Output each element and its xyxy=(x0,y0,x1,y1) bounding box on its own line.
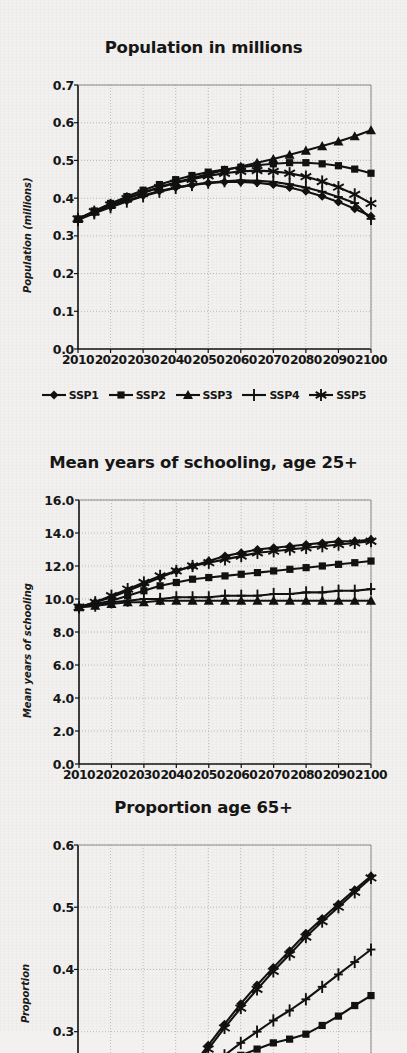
y-tick-label: 0.3 xyxy=(53,1024,74,1039)
x-tick-label: 2040 xyxy=(160,768,192,782)
x-tick-label: 2010 xyxy=(63,768,95,782)
diamond-marker xyxy=(41,388,67,402)
legend-item-ssp5[interactable]: SSP5 xyxy=(308,388,366,402)
asterisk-marker xyxy=(308,388,334,402)
y-tick-label: 0.6 xyxy=(53,115,74,130)
plus-marker xyxy=(241,388,267,402)
legend-item-ssp3[interactable]: SSP3 xyxy=(175,388,233,402)
x-tick-label: 2080 xyxy=(290,353,322,367)
y-axis-label-proportion65: Proportion xyxy=(20,964,31,1023)
y-axis-ticks-population: 0.00.10.20.30.40.50.60.7 xyxy=(32,83,74,348)
chart-title-population: Population in millions xyxy=(0,40,407,57)
y-tick-label: 4.0 xyxy=(53,690,74,705)
x-tick-label: 2070 xyxy=(258,768,290,782)
x-tick-label: 2100 xyxy=(355,353,387,367)
y-tick-label: 6.0 xyxy=(53,657,74,672)
y-tick-label: 0.3 xyxy=(53,228,74,243)
y-tick-label: 0.7 xyxy=(53,77,74,92)
x-tick-label: 2020 xyxy=(96,768,128,782)
chart-panel-schooling: Mean years of schooling, age 25+ Mean ye… xyxy=(0,455,407,778)
legend-label: SSP3 xyxy=(203,389,233,402)
x-tick-label: 2060 xyxy=(225,353,257,367)
y-tick-label: 0.4 xyxy=(53,190,74,205)
legend-label: SSP1 xyxy=(69,389,99,402)
chart-panel-population: Population in millions Population (milli… xyxy=(0,40,407,363)
square-marker xyxy=(108,388,134,402)
x-tick-label: 2050 xyxy=(193,768,225,782)
x-tick-label: 2040 xyxy=(160,353,192,367)
chart-panel-proportion65: Proportion age 65+ Proportion 0.20.30.40… xyxy=(0,800,407,1053)
y-tick-label: 2.0 xyxy=(53,723,74,738)
y-tick-label: 0.5 xyxy=(53,152,74,167)
y-tick-label: 0.2 xyxy=(53,266,74,281)
x-tick-label: 2030 xyxy=(128,768,160,782)
plot-area-proportion65: Proportion 0.20.30.40.50.6 xyxy=(0,823,407,1053)
legend-item-ssp1[interactable]: SSP1 xyxy=(41,388,99,402)
y-tick-label: 0.5 xyxy=(53,899,74,914)
y-tick-label: 10.0 xyxy=(44,591,74,606)
y-tick-label: 0.4 xyxy=(53,961,74,976)
y-tick-label: 8.0 xyxy=(53,624,74,639)
triangle-marker xyxy=(175,388,201,402)
legend-ssp: SSP1SSP2SSP3SSP4SSP5 xyxy=(0,388,407,402)
x-tick-label: 2050 xyxy=(192,353,224,367)
legend-label: SSP5 xyxy=(336,389,366,402)
chart-title-schooling: Mean years of schooling, age 25+ xyxy=(0,455,407,472)
y-tick-label: 16.0 xyxy=(44,492,74,507)
y-tick-label: 0.6 xyxy=(53,837,74,852)
x-tick-label: 2060 xyxy=(225,768,257,782)
x-tick-label: 2020 xyxy=(95,353,127,367)
x-tick-label: 2010 xyxy=(62,353,94,367)
x-tick-label: 2030 xyxy=(127,353,159,367)
legend-label: SSP2 xyxy=(136,389,166,402)
y-tick-label: 14.0 xyxy=(44,525,74,540)
y-axis-ticks-schooling: 0.02.04.06.08.010.012.014.016.0 xyxy=(28,498,74,763)
y-axis-ticks-proportion65: 0.20.30.40.50.6 xyxy=(32,843,74,1053)
legend-item-ssp2[interactable]: SSP2 xyxy=(108,388,166,402)
chart-title-proportion65: Proportion age 65+ xyxy=(0,800,407,817)
legend-item-ssp4[interactable]: SSP4 xyxy=(241,388,299,402)
x-tick-label: 2090 xyxy=(323,353,355,367)
x-tick-label: 2100 xyxy=(355,768,387,782)
series-SSP5 xyxy=(73,871,377,1052)
plot-area-population: Population (millions) 0.00.10.20.30.40.5… xyxy=(0,63,407,363)
y-tick-label: 0.1 xyxy=(53,303,74,318)
x-tick-label: 2080 xyxy=(290,768,322,782)
series-SSP4 xyxy=(74,943,376,1053)
plot-area-schooling: Mean years of schooling 0.02.04.06.08.01… xyxy=(0,478,407,778)
y-tick-label: 12.0 xyxy=(44,558,74,573)
legend-label: SSP4 xyxy=(269,389,299,402)
x-tick-label: 2070 xyxy=(257,353,289,367)
x-tick-label: 2090 xyxy=(323,768,355,782)
